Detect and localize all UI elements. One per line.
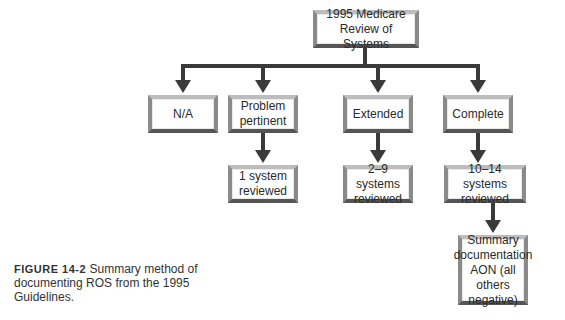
node-1-system-reviewed: 1 system reviewed (228, 165, 298, 203)
node-na: N/A (148, 95, 218, 133)
node-label: 1 system reviewed (239, 169, 287, 199)
node-label: Summary documentation AON (all others ne… (454, 233, 533, 308)
node-2-9-systems-reviewed: 2–9 systems reviewed (343, 165, 413, 203)
node-label: Extended (353, 107, 404, 122)
node-extended: Extended (343, 95, 413, 133)
root-node-label: 1995 Medicare Review of Systems (317, 7, 415, 52)
node-label: 2–9 systems reviewed (347, 162, 409, 207)
figure-label: FIGURE 14-2 (14, 263, 86, 275)
root-node-medicare-ros: 1995 Medicare Review of Systems (313, 10, 419, 48)
node-problem-pertinent: Problem pertinent (228, 95, 298, 133)
node-label: Problem pertinent (240, 99, 287, 129)
node-10-14-systems-reviewed: 10–14 systems reviewed (444, 165, 526, 203)
node-summary-documentation-aon: Summary documentation AON (all others ne… (458, 235, 528, 305)
node-label: N/A (173, 107, 193, 122)
node-label: 10–14 systems reviewed (448, 162, 522, 207)
figure-caption: FIGURE 14-2 Summary method of documentin… (14, 262, 214, 304)
node-label: Complete (452, 107, 503, 122)
node-complete: Complete (443, 95, 513, 133)
